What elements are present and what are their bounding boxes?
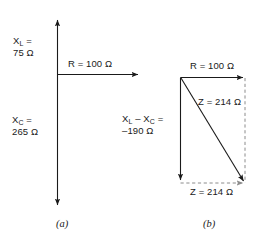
diagram-b-vectors	[181, 78, 246, 184]
vector-z-diagonal-arrow	[181, 78, 244, 181]
figure-container: XL =75 Ω XC =265 Ω R = 100 Ω (a) R = 100…	[0, 0, 263, 244]
caption-diagram-b: (b)	[203, 218, 215, 229]
label-capacitive-reactance: XC =265 Ω	[12, 114, 38, 137]
label-resistance-a: R = 100 Ω	[68, 58, 112, 70]
label-resistance-b: R = 100 Ω	[190, 60, 234, 72]
label-net-reactance: XL – XC =–190 Ω	[122, 113, 163, 136]
caption-diagram-a: (a)	[56, 218, 68, 229]
label-inductive-reactance: XL =75 Ω	[13, 35, 34, 58]
label-impedance-bottom: Z = 214 Ω	[190, 186, 233, 198]
label-impedance-diagonal: Z = 214 Ω	[198, 96, 241, 108]
